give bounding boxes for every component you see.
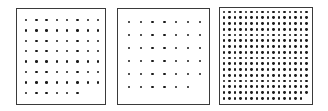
grid-dot: [87, 40, 90, 43]
grid-dot: [76, 81, 79, 84]
grid-dot: [261, 74, 264, 77]
grid-dot: [256, 51, 259, 54]
grid-dot: [228, 51, 231, 54]
grid-dot: [272, 68, 275, 71]
grid-dot: [283, 97, 286, 100]
grid-dot: [294, 28, 297, 31]
grid-dot: [250, 51, 253, 54]
grid-dot: [300, 28, 303, 31]
grid-dot: [35, 19, 38, 22]
grid-dot: [300, 74, 303, 77]
grid-dot: [35, 92, 38, 95]
grid-dot: [223, 97, 226, 100]
grid-dot: [56, 81, 59, 84]
grid-dot: [250, 74, 253, 77]
grid-dot: [289, 28, 292, 31]
grid-dot: [250, 97, 253, 100]
grid-dot: [267, 97, 270, 100]
grid-dot: [245, 74, 248, 77]
grid-dot: [45, 60, 48, 63]
grid-dot: [261, 68, 264, 71]
grid-dot: [300, 97, 303, 100]
grid-dot: [35, 71, 38, 74]
grid-dot: [272, 97, 275, 100]
grid-dot: [305, 68, 308, 71]
grid-dot: [283, 51, 286, 54]
grid-dot: [76, 29, 79, 32]
grid-dot: [261, 22, 264, 25]
grid-dot: [234, 74, 237, 77]
grid-dot: [45, 92, 48, 95]
grid-dot: [87, 29, 90, 32]
grid-dot: [239, 91, 242, 94]
grid-dot: [250, 28, 253, 31]
grid-dot: [300, 51, 303, 54]
grid-dot: [261, 97, 264, 100]
grid-dot: [283, 68, 286, 71]
grid-dot: [305, 28, 308, 31]
grid-dot: [272, 22, 275, 25]
grid-dot: [294, 51, 297, 54]
grid-dot: [283, 91, 286, 94]
grid-dot: [294, 68, 297, 71]
grid-dot: [228, 97, 231, 100]
grid-dot: [261, 45, 264, 48]
grid-dot: [250, 68, 253, 71]
grid-dot: [56, 60, 59, 63]
grid-dot: [228, 45, 231, 48]
grid-dot: [245, 97, 248, 100]
grid-dot: [228, 68, 231, 71]
grid-dot: [239, 68, 242, 71]
grid-dot: [35, 81, 38, 84]
grid-dot: [234, 28, 237, 31]
grid-dot: [239, 45, 242, 48]
grid-dot: [250, 91, 253, 94]
grid-dot: [56, 29, 59, 32]
panel-1: [16, 8, 106, 105]
grid-dot: [289, 51, 292, 54]
grid-dot: [234, 97, 237, 100]
grid-dot: [289, 97, 292, 100]
grid-dot: [223, 28, 226, 31]
grid-dot: [35, 40, 38, 43]
grid-dot: [305, 45, 308, 48]
grid-dot: [228, 28, 231, 31]
grid-dot: [223, 51, 226, 54]
grid-dot: [45, 40, 48, 43]
grid-dot: [278, 74, 281, 77]
grid-dot: [228, 74, 231, 77]
grid-dot: [45, 81, 48, 84]
grid-dot: [294, 45, 297, 48]
grid-dot: [267, 74, 270, 77]
grid-dot: [305, 51, 308, 54]
grid-dot: [278, 97, 281, 100]
grid-dot: [256, 28, 259, 31]
grid-dot: [261, 51, 264, 54]
grid-dot: [278, 51, 281, 54]
grid-dot: [239, 28, 242, 31]
grid-dot: [256, 97, 259, 100]
grid-dot: [294, 74, 297, 77]
grid-dot: [223, 74, 226, 77]
grid-dot: [283, 45, 286, 48]
grid-dot: [272, 91, 275, 94]
grid-dot: [76, 60, 79, 63]
grid-dot: [87, 81, 90, 84]
grid-dot: [305, 74, 308, 77]
grid-dot: [283, 22, 286, 25]
grid-dot: [239, 97, 242, 100]
grid-dot: [283, 28, 286, 31]
grid-dot: [294, 97, 297, 100]
grid-dot: [261, 91, 264, 94]
grid-dot: [261, 28, 264, 31]
grid-dot: [305, 91, 308, 94]
grid-dot: [272, 45, 275, 48]
grid-dot: [228, 22, 231, 25]
grid-dot: [239, 74, 242, 77]
grid-dot: [45, 29, 48, 32]
grid-dot: [35, 60, 38, 63]
grid-dot: [234, 51, 237, 54]
grid-dot: [267, 28, 270, 31]
grid-dot: [239, 22, 242, 25]
grid-dot: [305, 22, 308, 25]
